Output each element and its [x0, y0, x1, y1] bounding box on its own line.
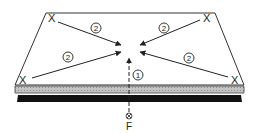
- svg-text:2: 2: [162, 24, 167, 33]
- diagram-canvas: X X X X 2 2 2 2 1 F: [0, 0, 257, 133]
- corner-x-bottom-right: X: [231, 74, 239, 86]
- step2-badge-top-left: 2: [91, 23, 101, 33]
- svg-text:2: 2: [94, 24, 99, 33]
- svg-text:1: 1: [136, 71, 141, 80]
- corner-x-bottom-left: X: [19, 74, 27, 86]
- svg-text:2: 2: [187, 54, 192, 63]
- step2-badge-bottom-left: 2: [63, 52, 73, 62]
- step2-badge-top-right: 2: [159, 23, 169, 33]
- step2-badge-bottom-right: 2: [184, 53, 194, 63]
- corner-x-top-right: X: [203, 12, 211, 24]
- force-symbol-icon: [126, 113, 132, 119]
- svg-text:2: 2: [66, 53, 71, 62]
- force-label: F: [126, 121, 132, 132]
- step1-badge: 1: [133, 70, 143, 80]
- corner-x-top-left: X: [48, 12, 56, 24]
